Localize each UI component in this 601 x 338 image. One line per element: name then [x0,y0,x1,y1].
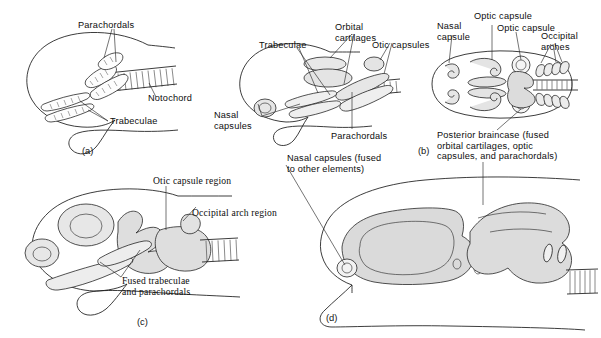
panel-d-letter: (d) [326,312,337,323]
panel-d-label-nasal-capsules: Nasal capsules (fusedto other elements) [287,153,381,174]
panel-d-posterior-braincase [467,203,571,283]
dnc-line2: to other elements) [287,164,364,174]
figure-root: Parachordals Notochord Trabeculae (a) [0,0,601,338]
panel-d-notochord [566,269,598,294]
panel-d-nasal-capsule-region [337,208,482,285]
dnc-line1: Nasal capsules (fused [287,153,381,163]
